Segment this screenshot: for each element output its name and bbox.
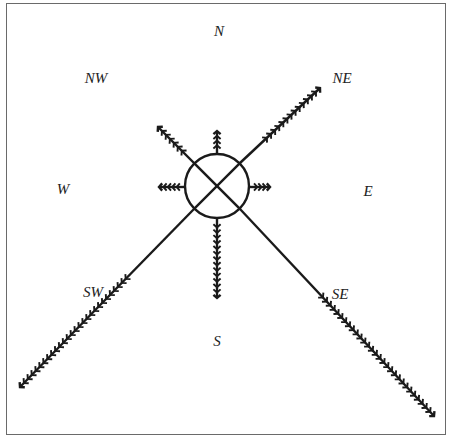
- label-northwest: NW: [85, 71, 108, 86]
- direction-arrows: [20, 88, 435, 417]
- arrow-e: [249, 183, 270, 190]
- label-southwest: SW: [83, 285, 103, 300]
- arrow-sw: [20, 209, 194, 387]
- center-cross: [194, 163, 239, 208]
- label-north: N: [214, 24, 224, 39]
- wind-rose-diagram: [0, 0, 450, 441]
- arrow-nw: [158, 127, 194, 163]
- arrow-s: [213, 218, 220, 298]
- arrow-ne: [240, 88, 320, 163]
- arrow-w: [159, 183, 185, 190]
- arrow-se: [240, 209, 434, 416]
- arrow-n: [213, 131, 220, 154]
- label-east: E: [363, 184, 372, 199]
- label-west: W: [57, 182, 70, 197]
- label-northeast: NE: [332, 71, 351, 86]
- label-south: S: [213, 334, 221, 349]
- label-southeast: SE: [332, 287, 349, 302]
